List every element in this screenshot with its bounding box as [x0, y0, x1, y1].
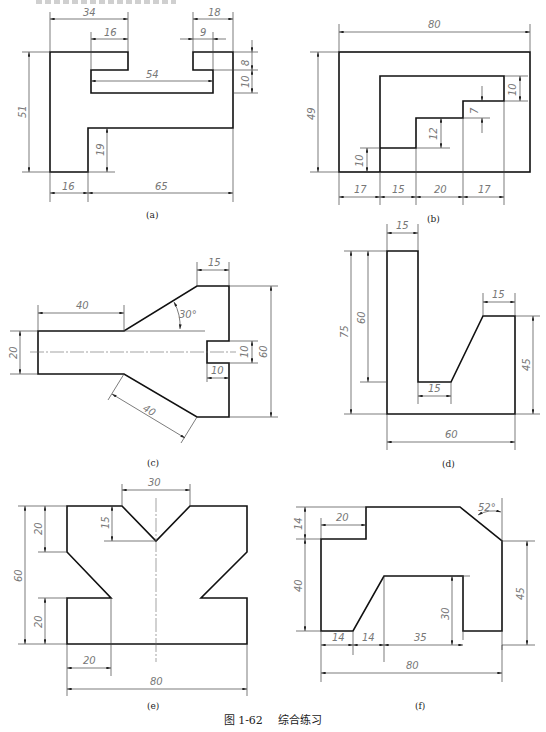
caption-b: (b) — [427, 214, 440, 224]
dim-14-a: 14 — [332, 632, 345, 643]
dim-40-top: 40 — [76, 300, 89, 311]
drawing-a: 34 16 18 9 8 10 54 51 19 16 65 (a) — [17, 7, 258, 220]
dim-20: 20 — [336, 512, 349, 523]
dim-17-b: 17 — [478, 184, 491, 195]
dim-19: 19 — [95, 143, 106, 156]
dim-15: 15 — [392, 184, 405, 195]
dim-14-b: 14 — [362, 632, 375, 643]
exercise-drawings: 34 16 18 9 8 10 54 51 19 16 65 (a) 80 49 — [0, 0, 546, 732]
dim-18: 18 — [208, 7, 221, 18]
dim-34: 34 — [83, 7, 96, 18]
dim-40: 40 — [293, 579, 304, 592]
dim-20-top: 20 — [33, 522, 44, 535]
dim-45: 45 — [521, 358, 532, 371]
figure-number: 图 1-62 — [224, 714, 263, 727]
dim-10-slot-depth: 10 — [211, 365, 224, 376]
figure-title: 综合练习 — [278, 714, 322, 727]
dim-17-a: 17 — [354, 184, 367, 195]
dim-40-slope: 40 — [141, 402, 158, 418]
dim-80: 80 — [428, 19, 441, 30]
dim-35: 35 — [414, 632, 427, 643]
figure-caption: 图 1-62 综合练习 — [0, 711, 546, 727]
drawing-e: 30 15 20 60 20 20 80 (e) — [13, 477, 247, 711]
dim-16-bottom: 16 — [62, 181, 75, 192]
dim-16-top: 16 — [104, 27, 117, 38]
dim-8: 8 — [240, 60, 251, 66]
dim-10-right: 10 — [507, 83, 518, 96]
dim-49: 49 — [306, 107, 317, 120]
dim-54: 54 — [146, 69, 159, 80]
dim-80: 80 — [150, 676, 163, 687]
dim-20: 20 — [8, 346, 19, 359]
dim-15: 15 — [100, 516, 111, 529]
dim-12: 12 — [428, 127, 439, 140]
caption-c: (c) — [147, 458, 159, 468]
dim-30: 30 — [148, 477, 161, 488]
drawing-c: 15 40 30° 20 10 10 60 40 (c) — [8, 257, 278, 468]
dim-10: 10 — [240, 75, 251, 88]
drawing-f: 52° 14 20 40 30 45 14 14 35 80 (f) — [293, 498, 535, 711]
dim-15-bottom: 15 — [428, 383, 441, 394]
dim-15: 15 — [208, 257, 221, 268]
dim-10-left: 10 — [354, 154, 365, 167]
dim-75: 75 — [339, 325, 350, 338]
caption-e: (e) — [147, 701, 159, 711]
dim-7: 7 — [469, 107, 480, 114]
caption-d: (d) — [442, 459, 455, 469]
dim-60-horizontal: 60 — [445, 429, 458, 440]
dim-15-right: 15 — [492, 289, 505, 300]
dim-60: 60 — [13, 569, 24, 582]
dim-20-bottom: 20 — [33, 615, 44, 628]
drawing-d: 15 75 60 15 15 45 60 (d) — [339, 220, 540, 469]
dim-9: 9 — [200, 27, 206, 38]
drawing-b: 80 49 10 7 12 10 17 15 20 17 (b) — [306, 19, 530, 224]
dim-30: 30 — [440, 607, 451, 620]
dim-65: 65 — [155, 181, 168, 192]
dim-15-top: 15 — [396, 220, 409, 231]
caption-a: (a) — [146, 210, 158, 220]
dim-51: 51 — [17, 105, 28, 118]
dim-60: 60 — [258, 345, 269, 358]
dim-20-horizontal: 20 — [83, 655, 96, 666]
dim-80: 80 — [406, 660, 419, 671]
dim-45: 45 — [515, 587, 526, 600]
dim-10-slot-height: 10 — [239, 345, 250, 358]
dim-angle-30: 30° — [179, 309, 197, 320]
dim-20: 20 — [434, 184, 447, 195]
caption-f: (f) — [415, 701, 425, 711]
dim-60-vertical: 60 — [356, 311, 367, 324]
dim-angle-52: 52° — [478, 502, 496, 513]
dim-14-vertical: 14 — [293, 517, 304, 530]
